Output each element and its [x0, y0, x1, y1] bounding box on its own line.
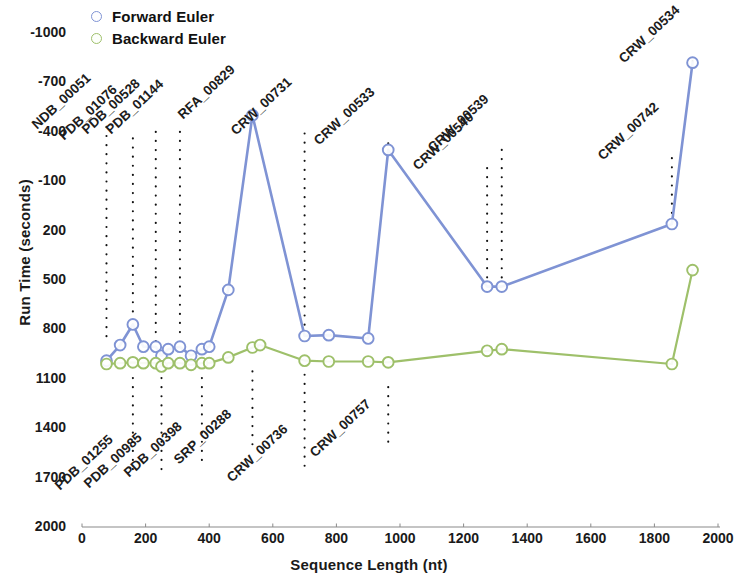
data-point-marker	[482, 345, 493, 356]
data-point-marker	[115, 358, 126, 369]
data-point-marker	[496, 344, 507, 355]
data-point-marker	[138, 358, 149, 369]
data-point-marker	[223, 352, 234, 363]
data-point-marker	[363, 356, 374, 367]
data-point-marker	[204, 358, 215, 369]
data-point-marker	[687, 265, 698, 276]
data-point-marker	[496, 281, 507, 292]
data-point-marker	[115, 340, 126, 351]
chart-canvas: Forward Euler Backward Euler Run Time (s…	[0, 0, 738, 579]
data-point-marker	[163, 344, 174, 355]
data-point-marker	[175, 341, 186, 352]
data-point-marker	[323, 330, 334, 341]
data-point-marker	[204, 341, 215, 352]
data-point-marker	[383, 145, 394, 156]
data-point-marker	[255, 340, 266, 351]
data-point-marker	[323, 356, 334, 367]
data-point-marker	[223, 284, 234, 295]
data-point-marker	[138, 341, 149, 352]
data-point-marker	[186, 359, 197, 370]
data-point-marker	[666, 359, 677, 370]
data-point-marker	[383, 357, 394, 368]
data-point-marker	[163, 358, 174, 369]
data-point-marker	[687, 57, 698, 68]
data-point-marker	[666, 219, 677, 230]
data-point-marker	[127, 319, 138, 330]
data-point-marker	[482, 281, 493, 292]
data-point-marker	[175, 358, 186, 369]
data-point-marker	[101, 359, 112, 370]
data-point-marker	[299, 355, 310, 366]
data-point-marker	[127, 357, 138, 368]
data-point-marker	[363, 333, 374, 344]
data-point-marker	[299, 331, 310, 342]
